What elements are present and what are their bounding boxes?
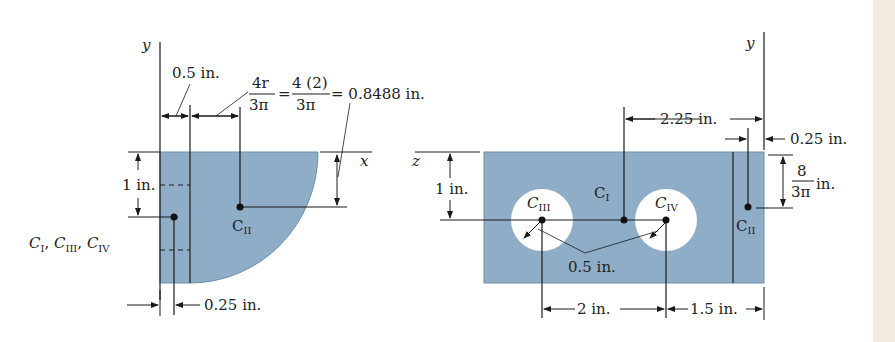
leader-line: [216, 92, 248, 116]
formula-mid-den: 3π: [296, 96, 316, 114]
dim-2-label: 2 in.: [577, 300, 611, 318]
dim-1-5-label: 1.5 in.: [690, 300, 738, 318]
formula-result: = 0.8488 in.: [331, 85, 425, 103]
left-figure: y 0.5 in. 4r 3π = 4 (2) 3π = 0.8488 in. …: [29, 36, 425, 316]
dim-0-5-label: 0.5 in.: [172, 64, 220, 82]
c1-centroid-dot: [621, 217, 628, 224]
formula-lhs-num: 4r: [252, 74, 270, 92]
right-y-axis-label: y: [745, 34, 755, 52]
leader-line: [338, 103, 350, 177]
right-dim-0-25-label: 0.25 in.: [790, 130, 847, 148]
centroid-group-label: CI, CIII, CIV: [29, 234, 110, 254]
dim-0-25-label: 0.25 in.: [204, 296, 261, 314]
c2-centroid-dot: [237, 204, 244, 211]
left-x-axis-label: x: [360, 152, 369, 170]
right-dim-1-label: 1 in.: [435, 180, 469, 198]
composite-area-diagram: y 0.5 in. 4r 3π = 4 (2) 3π = 0.8488 in. …: [0, 0, 895, 342]
c2-centroid-dot: [745, 204, 752, 211]
dim-2-25-label: 2.25 in.: [660, 110, 717, 128]
dim-8-den: 3π: [791, 183, 811, 201]
formula-eq: =: [278, 85, 291, 103]
right-dim-0-5-label: 0.5 in.: [568, 258, 616, 276]
formula-mid-num: 4 (2): [292, 74, 328, 92]
z-axis-label: z: [411, 152, 420, 170]
leader-line: [176, 84, 190, 116]
formula-lhs-den: 3π: [249, 96, 269, 114]
c1-c3-c4-centroid-dot: [171, 214, 178, 221]
dim-1-label: 1 in.: [122, 176, 156, 194]
dim-8-num: 8: [797, 162, 807, 180]
dim-8-unit: in.: [816, 175, 835, 193]
left-y-axis-label: y: [141, 36, 151, 54]
right-figure: y z 1 in. CI 2.25 in. 0.25 in. CII 8: [411, 32, 847, 320]
